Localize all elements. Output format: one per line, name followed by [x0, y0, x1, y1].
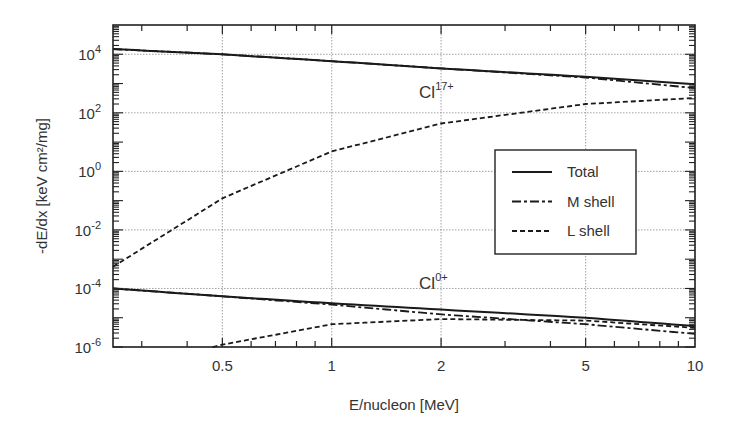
x-tick-label: 0.5	[212, 357, 233, 374]
legend-label: M shell	[567, 193, 615, 210]
y-tick-label: 10-2	[75, 219, 101, 239]
y-tick-label: 102	[78, 102, 101, 122]
y-tick-labels: 10410210010-210-410-6	[75, 43, 101, 356]
y-tick-label: 10-6	[75, 336, 101, 356]
x-tick-label: 2	[437, 357, 445, 374]
x-axis-title: E/nucleon [MeV]	[349, 396, 459, 413]
curve-label: Cl17+	[419, 80, 454, 102]
y-axis-title: -dE/dx [keV cm²/mg]	[33, 118, 50, 254]
legend-label: L shell	[567, 222, 610, 239]
legend: TotalM shellL shell	[495, 150, 636, 254]
x-tick-labels: 0.512510	[212, 357, 703, 374]
y-tick-label: 100	[78, 160, 101, 180]
cl0-l-shell-curve	[213, 319, 695, 347]
y-tick-label: 104	[78, 43, 101, 63]
x-tick-label: 5	[581, 357, 589, 374]
x-tick-label: 10	[687, 357, 704, 374]
curve-label: Cl0+	[419, 271, 448, 293]
cl17-m-shell-curve	[113, 49, 695, 88]
legend-label: Total	[567, 163, 599, 180]
y-tick-label: 10-4	[75, 277, 101, 297]
x-tick-label: 1	[328, 357, 336, 374]
chart: 0.512510 10410210010-210-410-6 E/nucleon…	[0, 0, 729, 437]
curve-annotations: Cl17+Cl0+	[419, 80, 454, 293]
